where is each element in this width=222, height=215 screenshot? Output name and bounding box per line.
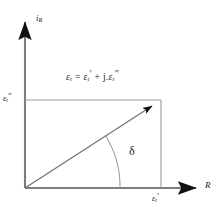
loss-angle-label: δ [129,145,135,157]
equation-plus: + [95,72,101,82]
permittivity-equation: εr = εr′ + j.εr″ [66,70,119,82]
real-axis-label: R [205,181,211,190]
real-axis-label-main: R [205,180,211,190]
y-tick-prime: ″ [8,91,12,101]
loss-angle-arc [105,135,120,188]
x-axis-tick-label: εr′ [152,192,159,204]
diagram-canvas [0,0,222,215]
equation-equals: = [75,72,81,82]
equation-lhs-subscript: r [70,76,72,82]
phasor-diagram-figure: εr = εr′ + j.εr″ iR R εr″ εr′ δ [0,0,222,215]
equation-term1-prime: ′ [90,69,92,79]
equation-term2-prime: ″ [115,69,119,79]
x-tick-prime: ′ [157,191,159,201]
imaginary-axis-label-sub: R [39,17,43,23]
y-axis-tick-label: εr″ [3,92,12,104]
imaginary-axis-label: iR [36,14,42,23]
